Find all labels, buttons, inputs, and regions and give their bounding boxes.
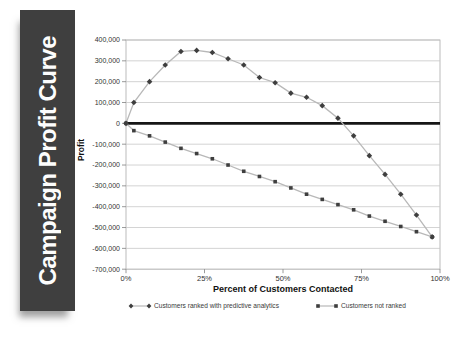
y-tick-label: -400,000: [92, 203, 120, 210]
slide: Campaign Profit Curve 400,000300,000200,…: [0, 0, 466, 342]
ranked-legend-marker: [129, 304, 134, 309]
y-tick-label: 400,000: [95, 36, 120, 43]
not-ranked-marker: [383, 219, 387, 223]
x-axis-title: Percent of Customers Contacted: [213, 284, 353, 294]
y-tick-label: 200,000: [95, 78, 120, 85]
not-ranked-marker: [179, 147, 183, 151]
not-ranked-marker: [273, 180, 277, 184]
not-ranked-marker: [430, 235, 434, 239]
not-ranked-marker: [163, 140, 167, 144]
plot-area: [126, 40, 440, 269]
not-ranked-marker: [368, 214, 372, 218]
not-ranked-marker: [195, 152, 199, 156]
x-tick-label: 75%: [354, 274, 369, 283]
y-tick-label: -500,000: [92, 224, 120, 231]
not-ranked-marker: [148, 134, 152, 138]
y-axis-title: Profit: [76, 139, 86, 161]
x-tick-label: 25%: [197, 274, 212, 283]
x-tick-label: 100%: [430, 274, 450, 283]
not-ranked-marker: [305, 192, 309, 196]
not-ranked-legend-label: Customers not ranked: [341, 302, 406, 309]
y-tick-label: 0: [116, 120, 120, 127]
not-ranked-marker: [258, 175, 262, 179]
not-ranked-marker: [242, 169, 246, 173]
y-tick-label: 100,000: [95, 99, 120, 106]
not-ranked-marker: [320, 198, 324, 202]
x-tick-label: 50%: [275, 274, 290, 283]
ranked-legend-label: Customers ranked with predictive analyti…: [154, 302, 280, 310]
not-ranked-marker: [289, 186, 293, 190]
x-tick-label: 0%: [121, 274, 132, 283]
not-ranked-legend-marker: [334, 304, 338, 308]
y-tick-label: -200,000: [92, 161, 120, 168]
not-ranked-marker: [352, 208, 356, 212]
not-ranked-legend-marker: [316, 304, 320, 308]
y-tick-label: 300,000: [95, 57, 120, 64]
not-ranked-marker: [124, 122, 128, 126]
y-tick-label: -700,000: [92, 266, 120, 273]
not-ranked-marker: [132, 129, 136, 133]
not-ranked-marker: [415, 230, 419, 234]
profit-chart: 400,000300,000200,000100,0000-100,000-20…: [0, 0, 466, 342]
ranked-legend-marker: [147, 304, 152, 309]
y-tick-label: -600,000: [92, 245, 120, 252]
not-ranked-marker: [399, 225, 403, 229]
not-ranked-marker: [336, 203, 340, 207]
y-tick-label: -100,000: [92, 141, 120, 148]
not-ranked-marker: [211, 157, 215, 161]
y-tick-label: -300,000: [92, 182, 120, 189]
not-ranked-marker: [226, 163, 230, 167]
